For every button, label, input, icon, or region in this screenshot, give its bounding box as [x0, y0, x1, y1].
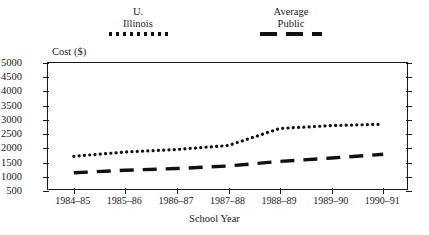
x-tick-mark — [280, 188, 281, 194]
y-tick-mark — [406, 134, 412, 135]
y-tick-label: 500 — [6, 186, 22, 197]
chart-figure: U. Illinois Average Public Cost ($) 5000… — [0, 0, 429, 235]
y-tick-label: 4000 — [1, 86, 22, 97]
x-axis-title: School Year — [0, 213, 429, 224]
x-tick-mark — [332, 188, 333, 194]
x-tick-label: 1984–85 — [55, 196, 90, 206]
legend-label-line2: Illinois — [96, 18, 180, 30]
y-tick-mark — [43, 120, 49, 121]
x-tick-mark — [125, 188, 126, 194]
y-tick-mark — [43, 148, 49, 149]
y-tick-mark — [406, 163, 412, 164]
y-tick-mark — [43, 106, 49, 107]
legend-item-u-illinois: U. Illinois — [96, 6, 180, 36]
y-tick-mark — [43, 91, 49, 92]
x-tick-mark — [229, 188, 230, 194]
x-tick-label: 1985–86 — [107, 196, 142, 206]
y-tick-mark — [406, 106, 412, 107]
series-line-average-public — [74, 154, 383, 172]
x-axis-labels: 1984–851985–861986–871987–881988–891989–… — [47, 196, 408, 210]
y-tick-mark — [406, 191, 412, 192]
y-tick-mark — [406, 177, 412, 178]
y-tick-mark — [406, 120, 412, 121]
x-tick-label: 1990–91 — [365, 196, 400, 206]
y-tick-mark — [406, 91, 412, 92]
y-tick-mark — [43, 177, 49, 178]
y-tick-mark — [43, 134, 49, 135]
legend-item-average-public: Average Public — [249, 6, 333, 36]
y-tick-label: 3500 — [1, 101, 22, 112]
legend-label-line1: Average — [249, 6, 333, 18]
x-tick-label: 1986–87 — [158, 196, 193, 206]
x-tick-label: 1988–89 — [262, 196, 297, 206]
y-tick-label: 2500 — [1, 129, 22, 140]
y-tick-mark — [406, 148, 412, 149]
y-tick-label: 1000 — [1, 172, 22, 183]
legend-label-line1: U. — [96, 6, 180, 18]
legend-label-line2: Public — [249, 18, 333, 30]
x-tick-label: 1989–90 — [313, 196, 348, 206]
y-tick-mark — [406, 63, 412, 64]
y-tick-mark — [43, 163, 49, 164]
series-line-u-illinois — [74, 124, 383, 156]
y-tick-mark — [43, 191, 49, 192]
y-tick-label: 5000 — [1, 58, 22, 69]
legend-swatch-dashed — [260, 32, 322, 36]
y-tick-mark — [43, 63, 49, 64]
series-layer — [48, 63, 409, 191]
y-axis-title: Cost ($) — [52, 46, 86, 57]
y-tick-label: 2000 — [1, 143, 22, 154]
y-tick-mark — [43, 77, 49, 78]
x-tick-label: 1987–88 — [210, 196, 245, 206]
legend-swatch-dotted — [107, 32, 169, 36]
plot-area: 500045004000350030002500200015001000500 — [47, 62, 408, 190]
y-tick-label: 3000 — [1, 115, 22, 126]
y-tick-label: 4500 — [1, 72, 22, 83]
x-tick-mark — [177, 188, 178, 194]
y-tick-label: 1500 — [1, 158, 22, 169]
y-tick-mark — [406, 77, 412, 78]
x-tick-mark — [383, 188, 384, 194]
x-tick-mark — [74, 188, 75, 194]
